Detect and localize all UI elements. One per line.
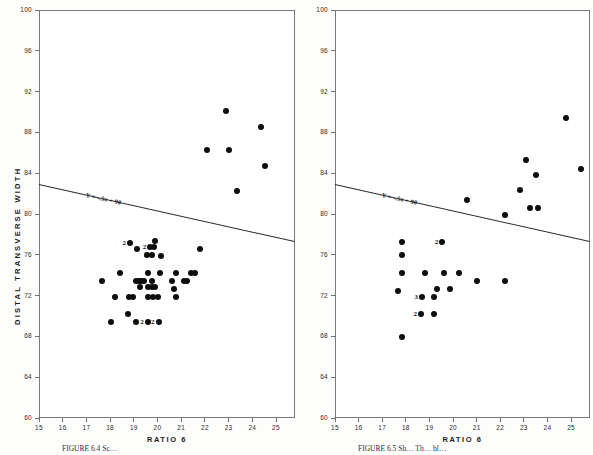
figure-sheet: 6064687276808488929610015161718192021222…	[0, 0, 593, 455]
data-point	[127, 240, 133, 246]
y-axis-tick	[35, 295, 39, 296]
y-axis-tick	[331, 50, 335, 51]
data-point	[149, 278, 155, 284]
data-point	[502, 212, 508, 218]
y-axis-tick-label: 96	[305, 47, 328, 54]
x-axis-tick	[547, 418, 548, 422]
data-point	[151, 244, 157, 250]
y-axis-tick-label: 64	[9, 373, 32, 380]
x-axis-tick	[252, 418, 253, 422]
data-point	[517, 187, 523, 193]
x-axis-tick-label: 15	[325, 424, 345, 431]
data-point	[523, 157, 529, 163]
data-point	[399, 270, 405, 276]
figure-caption-left: FIGURE 6.4 Sc…	[62, 444, 292, 455]
y-axis-tick	[35, 377, 39, 378]
y-axis-tick-label: 64	[305, 373, 328, 380]
data-point	[399, 239, 405, 245]
x-axis-tick	[571, 418, 572, 422]
data-point	[152, 284, 158, 290]
y-axis-title: DISTAL TRANSVERSE WIDTH	[13, 167, 22, 325]
y-axis-tick	[35, 254, 39, 255]
figure-panel-right: 6064687276808488929610015161718192021222…	[295, 0, 593, 455]
data-point	[419, 294, 425, 300]
data-point	[464, 197, 470, 203]
y-axis-tick-label: 100	[9, 6, 32, 13]
x-axis-tick-label: 22	[195, 424, 215, 431]
x-axis-tick-label: 23	[514, 424, 534, 431]
data-point	[204, 147, 210, 153]
data-point	[130, 294, 136, 300]
data-point	[137, 284, 143, 290]
y-axis-tick-label: 92	[9, 88, 32, 95]
data-point	[474, 278, 480, 284]
y-axis-tick	[35, 50, 39, 51]
y-axis-tick-label: 76	[305, 251, 328, 258]
data-point	[441, 270, 447, 276]
point-count-label: 2	[123, 239, 127, 247]
y-axis-tick	[331, 214, 335, 215]
data-point	[234, 188, 240, 194]
y-axis-tick	[331, 132, 335, 133]
y-axis-tick-label: 60	[9, 414, 32, 421]
point-count-label: 2	[435, 238, 439, 246]
y-axis-tick	[331, 377, 335, 378]
x-axis-tick-label: 20	[148, 424, 168, 431]
x-axis-tick-label: 23	[219, 424, 239, 431]
data-point	[112, 294, 118, 300]
x-axis-tick-label: 17	[76, 424, 96, 431]
y-axis-tick-label: 80	[305, 210, 328, 217]
x-axis-tick	[429, 418, 430, 422]
x-axis-tick-label: 19	[124, 424, 144, 431]
x-axis-tick	[453, 418, 454, 422]
x-axis-tick-label: 20	[443, 424, 463, 431]
data-point	[99, 278, 105, 284]
x-axis-tick-label: 18	[396, 424, 416, 431]
data-point	[456, 270, 462, 276]
data-point	[125, 311, 131, 317]
y-axis-tick-label: 88	[9, 128, 32, 135]
data-point	[399, 334, 405, 340]
data-point	[134, 246, 140, 252]
x-axis-tick-label: 24	[538, 424, 558, 431]
y-axis-tick	[331, 254, 335, 255]
data-point	[223, 108, 229, 114]
data-point	[156, 319, 162, 325]
y-axis-tick	[35, 214, 39, 215]
data-point	[173, 270, 179, 276]
data-point	[158, 253, 164, 259]
x-axis-title: RATIO 6	[107, 435, 227, 444]
x-axis-tick	[110, 418, 111, 422]
data-point	[431, 294, 437, 300]
data-point	[447, 286, 453, 292]
x-axis-tick	[500, 418, 501, 422]
x-axis-tick	[39, 418, 40, 422]
x-axis-tick-label: 21	[467, 424, 487, 431]
data-point	[418, 311, 424, 317]
data-point	[192, 270, 198, 276]
y-axis-tick-label: 92	[305, 88, 328, 95]
x-axis-title: RATIO 6	[403, 435, 523, 444]
y-axis-tick-label: 100	[305, 6, 328, 13]
point-count-label: 2	[413, 310, 417, 318]
point-count-label: 2	[150, 293, 154, 301]
x-axis-tick-label: 21	[171, 424, 191, 431]
y-axis-tick	[35, 91, 39, 92]
y-axis-tick	[331, 173, 335, 174]
x-axis-tick-label: 19	[419, 424, 439, 431]
x-axis-tick	[276, 418, 277, 422]
y-axis-tick	[35, 173, 39, 174]
data-point	[262, 163, 268, 169]
data-point	[439, 239, 445, 245]
x-axis-tick	[133, 418, 134, 422]
data-point	[171, 286, 177, 292]
y-axis-tick-label: 68	[305, 332, 328, 339]
data-point	[258, 124, 264, 130]
data-point	[152, 238, 158, 244]
y-axis-tick	[35, 132, 39, 133]
data-point	[141, 278, 147, 284]
x-axis-tick-label: 22	[490, 424, 510, 431]
x-axis-tick-label: 16	[53, 424, 73, 431]
data-point	[502, 278, 508, 284]
x-axis-tick	[382, 418, 383, 422]
